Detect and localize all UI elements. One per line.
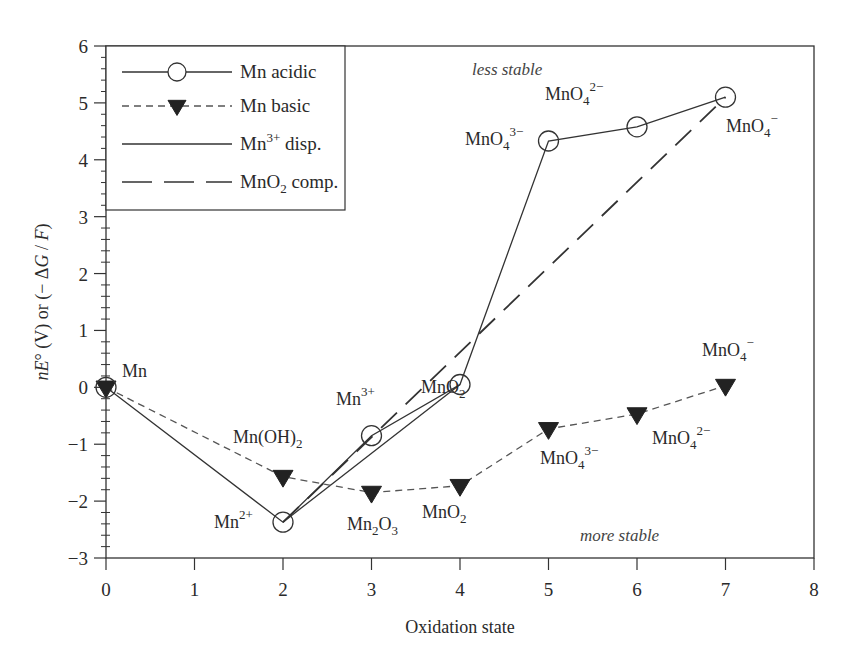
marker-acidic: [273, 512, 293, 532]
series-line-mn-basic: [106, 386, 726, 493]
marker-basic: [362, 486, 382, 503]
legend-marker-circle: [168, 63, 186, 81]
legend: Mn acidicMn basicMn3+ disp.MnO2 comp.: [106, 46, 345, 210]
marker-basic: [450, 479, 470, 496]
x-axis-title: Oxidation state: [405, 617, 514, 637]
point-label-basic: MnO2: [422, 502, 467, 526]
marker-basic: [273, 470, 293, 487]
x-tick-label: 1: [190, 579, 200, 600]
point-label-basic: Mn(OH)2: [233, 427, 303, 451]
marker-acidic: [716, 87, 736, 107]
y-tick-label: 4: [79, 150, 89, 171]
y-tick-label: −1: [68, 434, 88, 455]
point-label-acidic: MnO43−: [465, 124, 523, 153]
point-label-basic: MnO42−: [652, 423, 710, 452]
series-line-mno2-comp-: [283, 97, 726, 522]
x-tick-label: 4: [455, 579, 465, 600]
y-tick-label: −3: [68, 548, 88, 569]
y-tick-label: 3: [79, 207, 89, 228]
y-tick-label: 5: [79, 93, 89, 114]
point-label-acidic: Mn2+: [214, 507, 253, 532]
x-tick-label: 7: [721, 579, 731, 600]
point-label-basic: Mn2O3: [347, 514, 398, 538]
x-tick-label: 5: [544, 579, 554, 600]
frost-diagram: 012345678−3−2−10123456 MnMn2+Mn3+MnO2MnO…: [0, 0, 847, 662]
legend-label: Mn acidic: [240, 61, 317, 82]
y-tick-label: −2: [68, 491, 88, 512]
x-tick-label: 6: [632, 579, 642, 600]
x-tick-label: 2: [278, 579, 288, 600]
marker-acidic: [362, 426, 382, 446]
point-label-acidic: MnO42−: [545, 79, 603, 108]
marker-acidic: [627, 117, 647, 137]
point-label-basic: MnO43−: [540, 443, 598, 472]
marker-basic: [539, 423, 559, 440]
point-label-basic: MnO4−: [702, 335, 754, 364]
region-label-more-stable: more stable: [580, 526, 660, 545]
x-tick-label: 3: [367, 579, 377, 600]
point-label-acidic: Mn3+: [336, 384, 375, 409]
marker-acidic: [539, 131, 559, 151]
point-label-acidic: Mn: [122, 361, 147, 381]
y-tick-label: 0: [79, 377, 89, 398]
y-tick-label: 6: [79, 36, 89, 57]
legend-label: Mn basic: [240, 95, 310, 116]
legend-label: Mn3+ disp.: [240, 130, 321, 154]
marker-basic: [627, 408, 647, 425]
region-label-less-stable: less stable: [472, 60, 543, 79]
x-tick-label: 0: [101, 579, 111, 600]
point-label-acidic: MnO4−: [726, 111, 778, 140]
y-tick-label: 2: [79, 264, 89, 285]
x-tick-label: 8: [809, 579, 819, 600]
y-tick-label: 1: [79, 320, 89, 341]
marker-basic: [716, 379, 736, 396]
y-axis-title: nE° (V) or (− ΔG / F): [32, 224, 53, 381]
